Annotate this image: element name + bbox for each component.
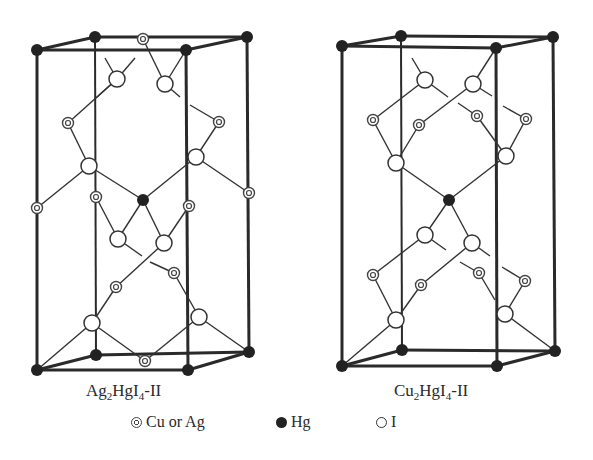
iodine-atom	[388, 155, 404, 171]
bond	[505, 314, 555, 351]
cu-ag-atom-core	[475, 114, 480, 119]
cu-ag-atom-core	[524, 117, 529, 122]
frame-edge	[37, 37, 95, 50]
cu-ag-atom-icon	[131, 417, 142, 428]
hg-atom	[491, 360, 503, 372]
hg-atom	[241, 31, 253, 43]
bond	[419, 84, 473, 125]
cu-ag-atom-core	[523, 279, 528, 284]
iodine-atom	[464, 235, 480, 251]
hg-atom	[180, 44, 192, 56]
legend-cu-ag: Cu or Ag	[131, 413, 205, 431]
bond	[68, 79, 117, 123]
cu-ag-atom-core	[94, 195, 99, 200]
cu-ag-atom-core	[417, 123, 422, 128]
bond	[196, 157, 249, 193]
iodine-atom	[417, 72, 433, 88]
cu-ag-atom-core	[66, 121, 71, 126]
legend-i: I	[376, 413, 396, 431]
cu-ag-atom-core	[141, 37, 146, 42]
frame-edge	[186, 37, 247, 50]
bond	[373, 235, 425, 275]
iodine-atom	[84, 315, 100, 331]
hg-atom	[243, 346, 255, 358]
cu-ag-atom-core	[187, 204, 192, 209]
frame-edge	[342, 36, 401, 46]
hg-atom	[443, 194, 455, 206]
iodine-atom	[188, 149, 204, 165]
frame-edge	[497, 351, 555, 366]
bond	[199, 317, 249, 352]
hg-atom	[31, 44, 43, 56]
hg-atom	[395, 30, 407, 42]
iodine-atom	[191, 309, 207, 325]
hg-atom	[89, 31, 101, 43]
frame-edge	[401, 36, 553, 37]
frame-edge	[496, 48, 497, 366]
iodine-atom	[110, 231, 126, 247]
cu-ag-atom-core	[143, 359, 148, 364]
iodine-atom	[81, 158, 97, 174]
iodine-atom	[497, 306, 513, 322]
hg-atom	[90, 349, 102, 361]
frame-edge	[188, 352, 249, 370]
iodine-atom	[465, 76, 481, 92]
iodine-atom	[498, 148, 514, 164]
bond	[396, 163, 449, 200]
iodine-atom-icon	[376, 417, 387, 428]
cu-ag-atom-core	[35, 206, 40, 211]
iodine-atom	[388, 312, 404, 328]
hg-atom	[336, 360, 348, 372]
iodine-atom	[109, 71, 125, 87]
hg-atom	[31, 364, 43, 376]
hg-atom	[182, 364, 194, 376]
frame-edge	[96, 352, 249, 355]
iodine-atom	[417, 227, 433, 243]
cu-ag-atom-core	[114, 285, 119, 290]
cu-ag-atom-core	[217, 120, 222, 125]
frame-edge	[401, 36, 402, 350]
cu-ag-atom-core	[419, 283, 424, 288]
cu-ag-atom-core	[247, 191, 252, 196]
hg-atom	[396, 344, 408, 356]
hg-atom	[137, 194, 149, 206]
hg-atom	[547, 31, 559, 43]
frame-edge	[553, 37, 555, 351]
frame-edge	[402, 350, 555, 351]
cu-ag-atom-core	[172, 271, 177, 276]
iodine-atom	[156, 235, 172, 251]
cu-ag-atom-core	[371, 273, 376, 278]
caption-cu2hgi4: Cu2HgI4-II	[394, 381, 468, 402]
hg-atom	[490, 42, 502, 54]
frame-edge	[496, 37, 553, 48]
frame-edge	[342, 46, 496, 48]
legend-hg: Hg	[276, 413, 311, 431]
caption-ag2hgi4: Ag2HgI4-II	[86, 381, 161, 402]
cu-ag-atom-core	[477, 271, 482, 276]
bond	[373, 80, 425, 120]
cu-ag-atom-core	[371, 118, 376, 123]
hg-atom	[549, 345, 561, 357]
hg-atom-icon	[276, 417, 287, 428]
hg-atom	[336, 40, 348, 52]
bond	[37, 166, 89, 208]
iodine-atom	[157, 76, 173, 92]
